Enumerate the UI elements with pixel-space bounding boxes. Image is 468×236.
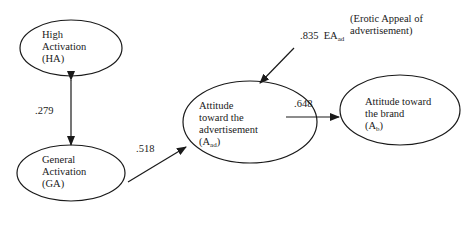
ga-label: General Activation (GA) xyxy=(42,154,86,190)
ha-label: High Activation (HA) xyxy=(42,29,86,65)
ab-label: Attitude toward the brand (Ab) xyxy=(365,96,431,132)
aad-label: Attitude toward the advertisement (Aad) xyxy=(199,100,258,148)
coef-ea-aad: .835 EAad xyxy=(300,30,344,42)
coef-ga-aad: .518 xyxy=(136,143,154,155)
ea-annotation: (Erotic Appeal of advertisement) xyxy=(350,13,423,37)
aad-symbol: (Aad) xyxy=(199,136,258,148)
coef-aad-ab: .648 xyxy=(294,98,312,110)
coef-ha-ga: .279 xyxy=(35,105,53,117)
ea-aad-arrow xyxy=(260,48,294,83)
ab-symbol: (Ab) xyxy=(365,120,431,132)
path-diagram: High Activation (HA) General Activation … xyxy=(0,0,468,236)
